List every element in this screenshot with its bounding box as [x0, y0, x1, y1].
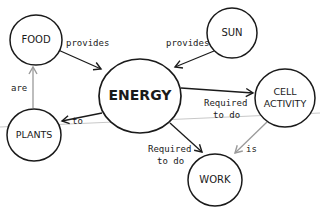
edge-label-work-required-line2: to do — [157, 156, 184, 166]
node-energy: ENERGY — [99, 59, 181, 133]
edge-label-cell-activity-required-line2: to do — [213, 110, 240, 120]
edge-label-cell-activity-required-line1: Required — [204, 98, 247, 108]
node-work: WORK — [188, 154, 242, 206]
edge-label-sun-provides: provides — [166, 38, 209, 48]
edge-food-provides-energy — [56, 49, 101, 69]
node-label-cell: CELL — [273, 86, 297, 97]
node-food: FOOD — [10, 15, 62, 65]
node-label-work: WORK — [199, 174, 231, 185]
node-label-food: FOOD — [21, 34, 50, 45]
edge-label-food-provides: provides — [66, 38, 109, 48]
edge-label-plants-are: are — [11, 83, 27, 93]
edge-label-energy-to: to — [72, 116, 83, 126]
concept-map: provides provides to are Required to do … — [0, 0, 320, 210]
node-plants: PLANTS — [7, 109, 61, 161]
node-label-sun: SUN — [221, 27, 242, 38]
node-label-plants: PLANTS — [16, 129, 53, 140]
node-sun: SUN — [207, 8, 257, 58]
edge-energy-requires-cell-activity — [181, 88, 253, 93]
node-label-energy: ENERGY — [109, 87, 173, 103]
edge-label-cell-activity-is: is — [246, 144, 257, 154]
node-label-activity: ACTIVITY — [264, 98, 307, 109]
node-cell-activity: CELL ACTIVITY — [255, 69, 315, 127]
edge-label-work-required-line1: Required — [148, 144, 191, 154]
edge-sun-provides-energy — [175, 51, 214, 67]
